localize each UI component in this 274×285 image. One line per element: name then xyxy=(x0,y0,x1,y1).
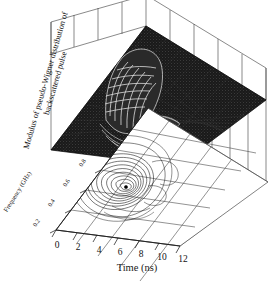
x-axis-title: Time (ns) xyxy=(0,262,274,273)
x-tick-label: 4 xyxy=(97,245,102,255)
x-tick-label: 0 xyxy=(55,240,60,250)
figure-pseudo-wigner-distribution: 0 2 4 6 8 10 12 0.2 0.4 0.6 0.8 Frequenc… xyxy=(0,0,274,285)
x-tick-label: 2 xyxy=(76,242,81,252)
x-tick-label: 6 xyxy=(118,247,123,257)
x-tick-label: 10 xyxy=(157,252,167,262)
x-tick-label: 8 xyxy=(139,249,144,259)
